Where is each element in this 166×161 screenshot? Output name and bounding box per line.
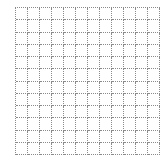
grid-cell: [76, 8, 88, 20]
grid-cell: [40, 20, 52, 32]
grid-cell: [28, 94, 40, 106]
grid-cell: [124, 45, 136, 57]
grid-cell: [112, 82, 124, 94]
grid-cell: [16, 57, 28, 69]
grid-cell: [136, 143, 148, 155]
grid-cell: [112, 143, 124, 155]
grid-cell: [76, 143, 88, 155]
grid-cell: [40, 106, 52, 118]
grid-cell: [40, 57, 52, 69]
grid-cell: [124, 143, 136, 155]
grid-cell: [28, 8, 40, 20]
grid-cell: [28, 106, 40, 118]
grid-cell: [112, 57, 124, 69]
grid-cell: [52, 106, 64, 118]
grid-cell: [124, 94, 136, 106]
grid-cell: [136, 57, 148, 69]
grid-cell: [136, 20, 148, 32]
grid-cell: [124, 20, 136, 32]
grid-cell: [124, 106, 136, 118]
grid-cell: [100, 131, 112, 143]
grid-cell: [76, 106, 88, 118]
grid-cell: [64, 57, 76, 69]
grid-cell: [64, 118, 76, 130]
grid-cell: [148, 20, 160, 32]
grid-cell: [100, 57, 112, 69]
grid-cell: [64, 20, 76, 32]
grid-cell: [52, 82, 64, 94]
grid-cell: [136, 94, 148, 106]
grid-cell: [40, 33, 52, 45]
grid-cell: [136, 106, 148, 118]
grid-cell: [100, 33, 112, 45]
grid-cell: [16, 82, 28, 94]
grid-cell: [148, 94, 160, 106]
grid-cell: [16, 69, 28, 81]
grid-cell: [40, 143, 52, 155]
grid-cell: [16, 33, 28, 45]
grid-cell: [100, 69, 112, 81]
grid-cell: [64, 8, 76, 20]
grid-cell: [52, 69, 64, 81]
grid-cell: [124, 118, 136, 130]
grid-cell: [136, 82, 148, 94]
grid-cell: [52, 118, 64, 130]
grid-cell: [148, 82, 160, 94]
grid-cell: [148, 106, 160, 118]
grid-cell: [136, 8, 148, 20]
grid-cell: [88, 45, 100, 57]
grid-cell: [16, 94, 28, 106]
grid-cell: [88, 69, 100, 81]
grid-cell: [40, 94, 52, 106]
grid-cell: [76, 20, 88, 32]
grid-cell: [148, 45, 160, 57]
grid-cell: [16, 20, 28, 32]
grid-cell: [124, 82, 136, 94]
grid-cell: [28, 69, 40, 81]
grid-cell: [52, 20, 64, 32]
grid-cell: [88, 33, 100, 45]
grid-cell: [136, 45, 148, 57]
grid-cell: [100, 45, 112, 57]
grid-cell: [76, 118, 88, 130]
grid-cell: [136, 69, 148, 81]
grid-cell: [76, 33, 88, 45]
grid-cell: [52, 57, 64, 69]
grid-cell: [124, 69, 136, 81]
grid-cell: [88, 131, 100, 143]
grid-cell: [112, 45, 124, 57]
grid-cell: [52, 8, 64, 20]
grid-cell: [112, 8, 124, 20]
grid-cell: [16, 131, 28, 143]
grid-cell: [64, 82, 76, 94]
grid-cell: [112, 69, 124, 81]
grid-cell: [100, 20, 112, 32]
grid-cell: [88, 94, 100, 106]
grid-cell: [16, 8, 28, 20]
grid-cell: [100, 82, 112, 94]
grid-cell: [64, 69, 76, 81]
grid-cell: [40, 45, 52, 57]
grid-cell: [52, 94, 64, 106]
grid-cell: [148, 143, 160, 155]
grid-cell: [112, 106, 124, 118]
grid-cell: [40, 8, 52, 20]
grid-cell: [148, 118, 160, 130]
grid-cell: [148, 69, 160, 81]
grid-cell: [40, 82, 52, 94]
grid-cell: [16, 45, 28, 57]
grid-cell: [88, 8, 100, 20]
grid-cell: [88, 118, 100, 130]
grid-cell: [100, 106, 112, 118]
grid-cell: [112, 33, 124, 45]
grid-cell: [76, 131, 88, 143]
grid-cell: [52, 131, 64, 143]
grid-cell: [136, 118, 148, 130]
grid-cell: [88, 20, 100, 32]
grid-cell: [112, 131, 124, 143]
grid-cell: [100, 8, 112, 20]
grid-cell: [136, 131, 148, 143]
grid-cell: [100, 94, 112, 106]
grid-cell: [40, 118, 52, 130]
grid-cell: [76, 69, 88, 81]
